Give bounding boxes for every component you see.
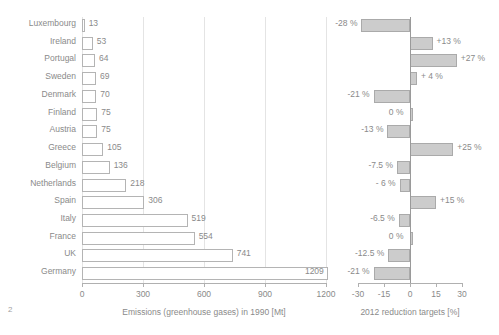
right-chart-row: -21 % [0,265,499,283]
right-chart-row: +13 % [0,35,499,53]
axis-tick [462,283,463,287]
bar-value-label: +27 % [461,52,485,65]
page-number: 2 [8,305,12,314]
bar-value-label: -7.5 % [368,159,393,172]
bar [361,19,410,32]
right-chart-row: - 6 % [0,177,499,195]
axis-tick [384,283,385,287]
axis-tick-label: 0 [408,289,413,299]
bar [397,161,410,174]
bar-value-label: - 6 % [376,177,396,190]
axis-tick-label: 15 [431,289,440,299]
bar [410,143,453,156]
axis-tick [436,283,437,287]
right-chart-x-axis-title: 2012 reduction targets [%] [300,307,499,317]
figure-two-panel-bar-chart: Luxembourg13Ireland53Portugal64Sweden69D… [0,0,499,335]
bar [399,214,410,227]
right-chart-row: 0 % [0,230,499,248]
bar [410,72,417,85]
right-chart-row: +15 % [0,194,499,212]
bar [410,37,433,50]
right-chart-row: +25 % [0,141,499,159]
bar-value-label: +25 % [457,141,481,154]
axis-tick [358,283,359,287]
bar-value-label: -6.5 % [370,212,395,225]
bar [374,90,410,103]
bar [388,249,410,262]
bar [387,125,410,138]
bar [400,179,410,192]
bar-value-label: -21 % [347,265,369,278]
right-chart-row: -7.5 % [0,159,499,177]
axis-tick-label: -15 [378,289,390,299]
bar-value-label: -12.5 % [355,247,384,260]
bar-value-label: 0 % [389,106,404,119]
bar-value-label: +13 % [437,35,461,48]
axis-tick-label: 30 [457,289,466,299]
right-chart-reduction-targets: -28 %+13 %+27 %+ 4 %-21 %0 %-13 %+25 %-7… [0,0,499,335]
right-chart-row: 0 % [0,106,499,124]
right-chart-row: + 4 % [0,70,499,88]
bar-value-label: -28 % [335,17,357,30]
right-chart-row: -13 % [0,123,499,141]
bar-value-label: 0 % [389,230,404,243]
right-chart-row: -21 % [0,88,499,106]
right-chart-row: +27 % [0,52,499,70]
axis-tick-label: -30 [352,289,364,299]
axis-tick [410,283,411,287]
right-chart-row: -28 % [0,17,499,35]
bar-value-label: -21 % [347,88,369,101]
bar-value-label: -13 % [361,123,383,136]
bar-value-label: + 4 % [421,70,443,83]
bar [410,54,457,67]
right-chart-row: -6.5 % [0,212,499,230]
right-chart-row: -12.5 % [0,247,499,265]
bar [374,267,410,280]
right-chart-zero-line [410,17,411,283]
bar-value-label: +15 % [440,194,464,207]
bar [410,196,436,209]
